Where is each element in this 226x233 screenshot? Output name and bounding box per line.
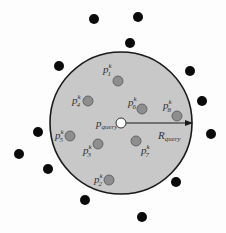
- inner-point-5: [65, 131, 75, 141]
- outer-point-8: [206, 129, 216, 139]
- outer-point-12: [80, 195, 90, 205]
- outer-point-6: [197, 96, 207, 106]
- outer-point-10: [43, 164, 53, 174]
- inner-point-1: [113, 76, 123, 86]
- inner-point-3: [93, 139, 103, 149]
- inner-point-4: [83, 96, 93, 106]
- outer-point-2: [133, 12, 143, 22]
- inner-point-7: [131, 136, 141, 146]
- outer-point-7: [33, 127, 43, 137]
- query-point: [116, 118, 126, 128]
- inner-point-6: [137, 104, 147, 114]
- outer-point-4: [54, 61, 64, 71]
- inner-point-8: [172, 111, 182, 121]
- outer-point-1: [89, 14, 99, 24]
- inner-point-2: [104, 175, 114, 185]
- outer-point-3: [125, 38, 135, 48]
- range-query-diagram: pk1pk4pk6pk8pk5pk3pk7pk2 pquery Rquery: [0, 0, 226, 233]
- outer-point-5: [185, 66, 195, 76]
- outer-point-13: [137, 212, 147, 222]
- outer-point-11: [171, 177, 181, 187]
- outer-point-9: [14, 149, 24, 159]
